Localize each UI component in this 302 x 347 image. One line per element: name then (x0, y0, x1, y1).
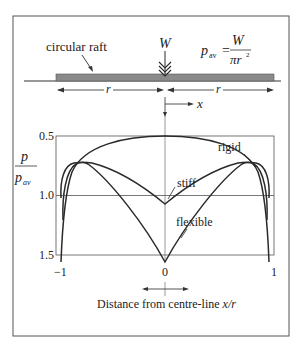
raft-label: circular raft (46, 39, 107, 54)
svg-text:p: p (20, 149, 28, 164)
dimension-left: r (57, 82, 164, 96)
raft-pressure-figure: circular raft W p av = W πr 2 r r x (0, 0, 302, 347)
x-axis-symbol: x (196, 96, 203, 111)
label-rigid: rigid (218, 140, 241, 154)
dimension-right: r (167, 82, 274, 96)
label-flexible: flexible (176, 215, 213, 229)
svg-text:p: p (200, 43, 208, 58)
svg-text:πr: πr (230, 52, 243, 67)
average-pressure-formula: p av = W πr 2 (200, 33, 251, 67)
y-axis-label: p p av (14, 149, 37, 187)
svg-text:W: W (232, 33, 245, 48)
x-axis-title: Distance from centre-line x/r (97, 297, 236, 311)
leader-rigid (244, 154, 256, 168)
y-tick-0-5: 0.5 (39, 129, 54, 143)
svg-text:av: av (209, 51, 217, 60)
x-tick-minus-1: −1 (54, 265, 67, 279)
raft-leader-arrowhead-icon (88, 66, 93, 72)
svg-text:p: p (14, 170, 22, 185)
arrowhead-right-icon (267, 88, 274, 93)
load-label: W (159, 36, 172, 51)
x-tick-1: 1 (271, 265, 277, 279)
arrowhead-left-icon (167, 88, 174, 93)
x-tick-0: 0 (162, 265, 168, 279)
y-tick-1-0: 1.0 (39, 188, 54, 202)
arrowhead-right-icon (157, 88, 164, 93)
svg-text:av: av (23, 178, 31, 187)
figure-frame (13, 16, 289, 336)
arrowhead-left-icon (57, 88, 64, 93)
left-arrowhead-icon (142, 287, 148, 291)
pressure-plot: 0.5 1.0 1.5 p p av −1 0 1 Distance from … (14, 116, 277, 311)
svg-text:2: 2 (246, 51, 250, 59)
right-arrowhead-icon (183, 287, 189, 291)
svg-text:=: = (222, 43, 230, 58)
svg-text:r: r (106, 82, 111, 96)
svg-text:r: r (216, 82, 221, 96)
label-stiff: stiff (177, 176, 196, 190)
x-arrowhead-icon (188, 102, 194, 106)
y-tick-1-5: 1.5 (39, 248, 54, 262)
circular-raft (56, 74, 274, 81)
